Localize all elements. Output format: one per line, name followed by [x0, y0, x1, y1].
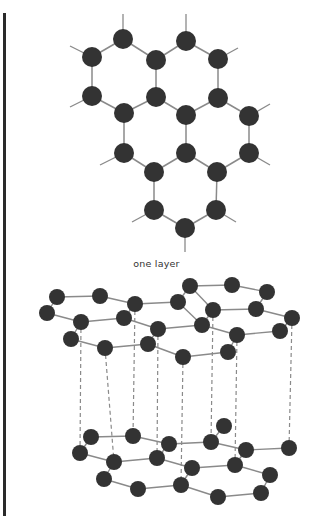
carbon-atom	[146, 87, 166, 107]
carbon-atom	[72, 445, 88, 461]
carbon-atom	[284, 310, 300, 326]
carbon-atom	[63, 331, 79, 347]
carbon-atom	[205, 302, 221, 318]
carbon-atom	[229, 327, 245, 343]
carbon-atom	[224, 277, 240, 293]
carbon-atom	[140, 336, 156, 352]
carbon-atom	[253, 485, 269, 501]
caption-one-layer: one layer	[0, 258, 313, 269]
carbon-atom	[281, 440, 297, 456]
dashed-line	[105, 348, 114, 462]
carbon-atom	[194, 317, 210, 333]
carbon-atom	[220, 344, 236, 360]
carbon-atom	[203, 434, 219, 450]
carbon-atom	[259, 284, 275, 300]
carbon-atom	[130, 481, 146, 497]
carbon-atom	[227, 457, 243, 473]
carbon-atom	[207, 162, 227, 182]
carbon-atom	[184, 460, 200, 476]
bottom-layer-atoms	[72, 418, 297, 505]
carbon-atom	[106, 454, 122, 470]
carbon-atom	[175, 349, 191, 365]
carbon-atom	[82, 47, 102, 67]
bonds	[92, 39, 249, 228]
carbon-atom	[49, 289, 65, 305]
carbon-atom	[238, 442, 254, 458]
carbon-atom	[113, 29, 133, 49]
carbon-atom	[173, 477, 189, 493]
dashed-line	[211, 310, 213, 442]
carbon-atom	[144, 200, 164, 220]
carbon-atom	[125, 428, 141, 444]
carbon-atom	[216, 418, 232, 434]
carbon-atom	[39, 305, 55, 321]
carbon-atom	[149, 450, 165, 466]
carbon-atom	[114, 143, 134, 163]
bond-stubs	[70, 14, 270, 252]
carbon-atom	[262, 467, 278, 483]
carbon-atoms	[82, 29, 259, 238]
single-graphene-layer	[70, 14, 270, 252]
carbon-atom	[272, 323, 288, 339]
carbon-atom	[116, 310, 132, 326]
stacked-layers	[39, 277, 300, 505]
carbon-atom	[182, 278, 198, 294]
carbon-atom	[175, 218, 195, 238]
carbon-atom	[206, 200, 226, 220]
carbon-atom	[127, 296, 143, 312]
carbon-atom	[82, 86, 102, 106]
carbon-atom	[73, 314, 89, 330]
carbon-atom	[170, 294, 186, 310]
carbon-atom	[176, 31, 196, 51]
carbon-atom	[248, 301, 264, 317]
carbon-atom	[176, 105, 196, 125]
carbon-atom	[83, 429, 99, 445]
carbon-atom	[208, 49, 228, 69]
carbon-atom	[161, 436, 177, 452]
carbon-atom	[208, 88, 228, 108]
carbon-atom	[146, 50, 166, 70]
carbon-atom	[176, 143, 196, 163]
carbon-atom	[210, 489, 226, 505]
carbon-atom	[97, 340, 113, 356]
dashed-line	[289, 318, 292, 448]
carbon-atom	[239, 143, 259, 163]
carbon-atom	[114, 103, 134, 123]
carbon-atom	[150, 321, 166, 337]
carbon-atom	[92, 288, 108, 304]
dashed-line	[133, 304, 135, 436]
carbon-atom	[96, 471, 112, 487]
carbon-atom	[239, 106, 259, 126]
carbon-atom	[144, 162, 164, 182]
